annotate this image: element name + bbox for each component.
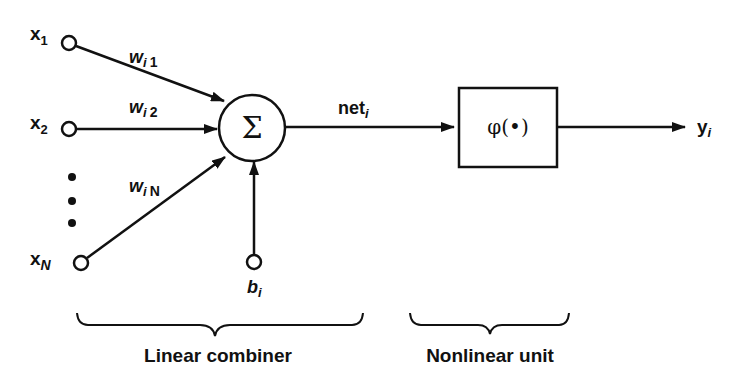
ellipsis-dots: [68, 173, 76, 227]
weight-edge-N: [87, 157, 225, 258]
weight-label-N: wiN: [129, 176, 160, 199]
summation-node: Σ: [219, 95, 285, 161]
net-label: neti: [338, 98, 369, 121]
neuron-diagram: x1 wi1 x2 wi2 xN wiN Σ bi neti φ(•): [0, 0, 736, 390]
activation-box: φ(•): [459, 88, 557, 167]
input-x1: x1: [30, 23, 76, 50]
input-x1-label: x1: [30, 23, 48, 48]
input-x2-label: x2: [30, 112, 48, 137]
input-node-2: [62, 122, 76, 136]
input-node-1: [62, 36, 76, 50]
bias-label: bi: [247, 277, 262, 300]
sigma-symbol: Σ: [241, 110, 262, 145]
weight-label-1: wi1: [129, 47, 158, 70]
input-node-N: [74, 256, 88, 270]
input-x2: x2: [30, 112, 76, 137]
linear-combiner-brace: [77, 313, 363, 336]
input-xN: xN: [30, 248, 88, 273]
weight-label-2: wi2: [129, 97, 158, 120]
activation-symbol: φ(•): [487, 115, 528, 139]
output-label: yi: [697, 116, 712, 140]
linear-combiner-label: Linear combiner: [144, 345, 292, 366]
bias-node: [247, 255, 261, 269]
nonlinear-unit-label: Nonlinear unit: [426, 345, 554, 366]
bias-input: bi: [247, 162, 262, 300]
nonlinear-unit-brace: [410, 313, 569, 334]
input-xN-label: xN: [30, 248, 52, 273]
